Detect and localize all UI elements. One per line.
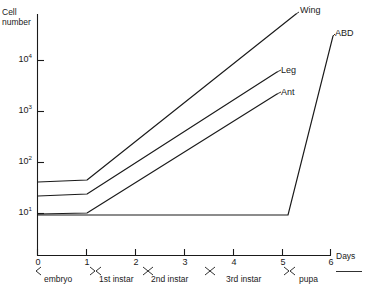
x-tick-label-0: 0: [31, 258, 45, 267]
x-tick-label-3: 3: [178, 258, 192, 267]
leader-wing: [296, 12, 299, 14]
y-tick-mantissa-100: 10: [19, 156, 29, 166]
stage-label-third-instar: 3rd instar: [226, 274, 261, 284]
stage-label-second-instar: 2nd instar: [151, 274, 188, 284]
x-axis-title: Days: [336, 252, 355, 261]
series-label-abd: ABD: [335, 29, 354, 38]
y-tick-exponent-100: 2: [29, 154, 32, 161]
series-line-ant: [38, 94, 277, 214]
stage-label-embryo: embryo: [44, 274, 72, 284]
x-tick-label-2: 2: [129, 258, 143, 267]
series-label-ant: Ant: [281, 88, 295, 97]
chart-canvas: [0, 0, 369, 293]
stage-marker-3rd-start: [210, 267, 215, 275]
stage-label-first-instar: 1st instar: [99, 274, 134, 284]
axis-lines: [37, 14, 331, 256]
stage-marker-pupa-start: [290, 267, 295, 275]
stage-marker-1st-end: [143, 267, 148, 275]
y-tick-label-10: 101: [6, 208, 32, 217]
x-tick-label-1: 1: [80, 258, 94, 267]
y-axis-title-line2: number: [2, 18, 48, 28]
stage-marker-embryo-end: [90, 267, 95, 275]
series-line-abd: [38, 36, 333, 215]
y-tick-mantissa-1000: 10: [19, 105, 29, 115]
cell-number-growth-chart: Cell number 104 103 102 101 0 1 2 3 4 5 …: [0, 0, 369, 293]
stage-marker-embryo-start: [36, 267, 41, 275]
y-tick-exponent-10000: 4: [29, 52, 32, 59]
x-tick-label-5: 5: [276, 258, 290, 267]
y-axis-title: Cell number: [2, 8, 48, 27]
series-label-leg: Leg: [281, 66, 296, 75]
y-tick-mantissa-10000: 10: [19, 54, 29, 64]
y-tick-exponent-1000: 3: [29, 103, 32, 110]
y-tick-label-100: 102: [6, 157, 32, 166]
y-tick-mantissa-10: 10: [19, 207, 29, 217]
series-label-leaders: [277, 12, 335, 94]
series-label-wing: Wing: [300, 6, 321, 15]
stage-label-pupa: pupa: [299, 274, 318, 284]
series-line-leg: [38, 72, 277, 196]
x-axis-ticks: [38, 249, 331, 255]
y-tick-label-10000: 104: [6, 55, 32, 64]
y-tick-exponent-10: 1: [29, 205, 32, 212]
y-axis-ticks: [38, 61, 44, 214]
series-line-wing: [38, 14, 296, 182]
stage-marker-2nd-end: [205, 267, 210, 275]
y-tick-label-1000: 103: [6, 106, 32, 115]
x-tick-label-4: 4: [227, 258, 241, 267]
stage-marker-3rd-end: [284, 267, 289, 275]
